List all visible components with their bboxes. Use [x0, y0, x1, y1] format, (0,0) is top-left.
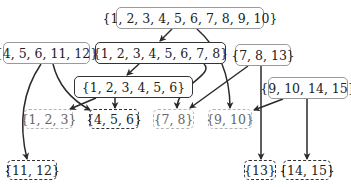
node-set-13: {13}: [244, 160, 276, 180]
node-set-7-8-13: {7, 8, 13}: [235, 44, 291, 66]
edge-1to10-1to8: [160, 29, 172, 41]
edge-1to10-9_10: [197, 29, 230, 108]
node-set-4-5-6-11-12: {4, 5, 6, 11, 12}: [3, 42, 90, 64]
node-set-1-to-6: {1, 2, 3, 4, 5, 6}: [74, 76, 193, 98]
node-set-9-10: {9, 10}: [208, 109, 252, 129]
node-set-1-to-10: {1, 2, 3, 4, 5, 6, 7, 8, 9, 10}: [116, 7, 264, 29]
node-set-4-5-6: {4, 5, 6}: [89, 109, 139, 129]
node-set-7-8: {7, 8}: [153, 109, 194, 129]
node-set-9-10-14-15: {9, 10, 14, 15}: [268, 77, 348, 99]
edge-9_10_14_15-9_10: [254, 99, 283, 110]
node-set-1-2-3: {1, 2, 3}: [24, 109, 73, 129]
node-set-1-to-8: {1, 2, 3, 4, 5, 6, 7, 8}: [95, 42, 226, 64]
edge-1to8-1to6: [127, 64, 139, 75]
node-set-14-15: {14, 15}: [283, 160, 331, 180]
edge-7_8_13-7_8: [190, 66, 248, 108]
node-set-11-12: {11, 12}: [7, 160, 57, 180]
